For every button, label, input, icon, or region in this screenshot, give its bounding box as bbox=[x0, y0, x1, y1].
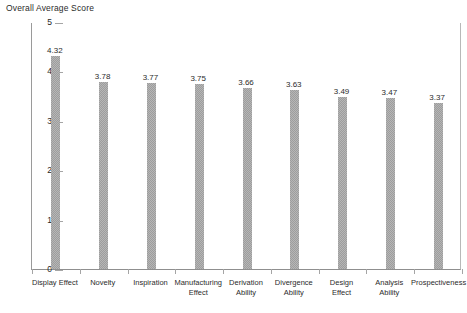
category-label: Novelty bbox=[77, 278, 129, 288]
category-label: Analysis Ability bbox=[363, 278, 415, 297]
y-tick-mark bbox=[55, 23, 63, 24]
category-label: Display Effect bbox=[29, 278, 81, 288]
bar-value-label: 3.63 bbox=[274, 80, 314, 90]
bar bbox=[243, 88, 252, 269]
plot-area: 012345 bbox=[31, 23, 461, 270]
bar-value-label: 3.66 bbox=[226, 78, 266, 88]
x-tick-mark bbox=[271, 269, 272, 274]
x-tick-mark bbox=[414, 269, 415, 274]
bar bbox=[147, 83, 156, 269]
bar-value-label: 4.32 bbox=[35, 46, 75, 56]
category-label: Derivation Ability bbox=[220, 278, 272, 297]
y-axis-tick: 0 bbox=[32, 270, 63, 271]
bar bbox=[290, 90, 299, 269]
category-label: Prospectiveness bbox=[411, 278, 463, 288]
x-tick-mark bbox=[223, 269, 224, 274]
y-axis-tick: 5 bbox=[32, 23, 63, 24]
x-tick-mark bbox=[175, 269, 176, 274]
x-tick-mark bbox=[462, 269, 463, 274]
x-tick-mark bbox=[366, 269, 367, 274]
y-tick-mark bbox=[55, 270, 63, 271]
category-label: Design Effect bbox=[316, 278, 368, 297]
chart-title: Overall Average Score bbox=[6, 3, 94, 13]
category-label: Manufacturing Effect bbox=[172, 278, 224, 297]
bar bbox=[195, 84, 204, 269]
x-tick-mark bbox=[32, 269, 33, 274]
bar-chart: Overall Average Score 012345 4.323.783.7… bbox=[0, 0, 467, 313]
x-tick-mark bbox=[80, 269, 81, 274]
category-label: Inspiration bbox=[124, 278, 176, 288]
x-tick-mark bbox=[319, 269, 320, 274]
bar-value-label: 3.47 bbox=[369, 88, 409, 98]
bar-value-label: 3.77 bbox=[130, 73, 170, 83]
bar-value-label: 3.49 bbox=[322, 87, 362, 97]
bar-value-label: 3.75 bbox=[178, 74, 218, 84]
bar bbox=[338, 97, 347, 269]
bar bbox=[51, 56, 60, 269]
bar bbox=[99, 82, 108, 269]
x-tick-mark bbox=[128, 269, 129, 274]
y-tick-label: 5 bbox=[47, 17, 52, 28]
bar-value-label: 3.78 bbox=[83, 72, 123, 82]
bar-value-label: 3.37 bbox=[417, 93, 457, 103]
category-label: Divergence Ability bbox=[268, 278, 320, 297]
bar bbox=[434, 103, 443, 269]
bar bbox=[386, 98, 395, 269]
